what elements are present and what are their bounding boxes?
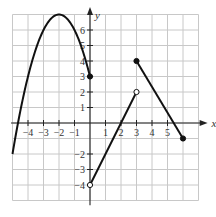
x-tick-label: 5 xyxy=(165,127,170,138)
closed-endpoint-dot xyxy=(87,74,92,79)
x-tick-label: −4 xyxy=(23,127,34,138)
y-tick-label: 1 xyxy=(80,102,85,113)
y-tick-label: 2 xyxy=(80,87,85,98)
x-tick-label: −3 xyxy=(38,127,49,138)
grid-lines xyxy=(13,15,199,201)
y-tick-label: −3 xyxy=(74,164,85,175)
x-tick-label: −2 xyxy=(54,127,65,138)
x-tick-label: 1 xyxy=(103,127,108,138)
axes: xy xyxy=(11,7,216,205)
y-axis-arrow-icon xyxy=(87,7,93,15)
x-tick-label: 4 xyxy=(150,127,155,138)
closed-endpoint-dot xyxy=(180,136,185,141)
y-axis-label: y xyxy=(94,9,100,21)
x-tick-label: −1 xyxy=(69,127,80,138)
y-tick-label: 3 xyxy=(80,71,85,82)
line-segment xyxy=(137,61,184,139)
x-axis-label: x xyxy=(211,117,216,129)
open-endpoint-dot xyxy=(87,182,92,187)
y-tick-label: 6 xyxy=(80,25,85,36)
y-tick-label: −2 xyxy=(74,149,85,160)
graph-curves xyxy=(13,15,184,186)
x-tick-label: 3 xyxy=(134,127,139,138)
x-axis-arrow-icon xyxy=(200,120,208,126)
open-endpoint-dot xyxy=(134,89,139,94)
y-tick-label: −4 xyxy=(74,180,85,191)
closed-endpoint-dot xyxy=(134,58,139,63)
function-graph: xy −4−3−2−112345654321−2−3−4 xyxy=(0,0,216,217)
